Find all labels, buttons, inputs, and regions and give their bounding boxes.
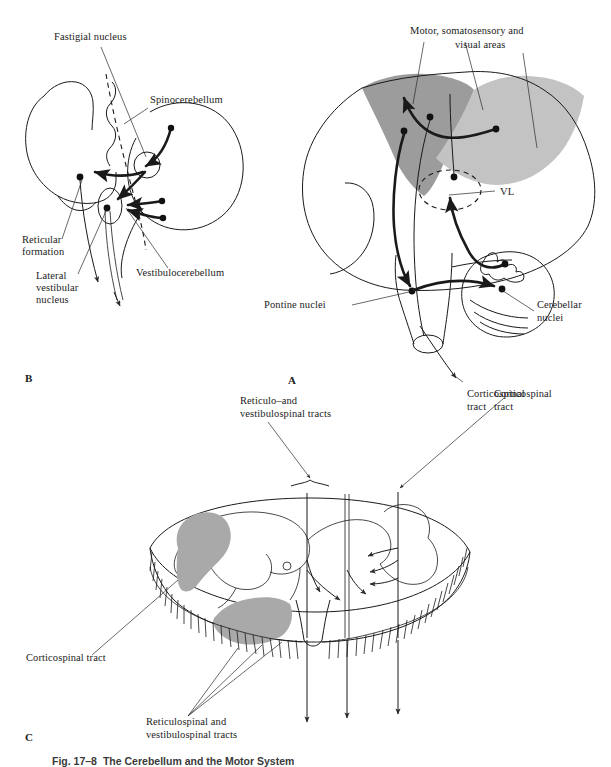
- reticulospinal-leader-3: [188, 642, 282, 716]
- figure-caption-text: The Cerebellum and the Motor System: [103, 755, 294, 767]
- label-spinocerebellum: Spinocerebellum: [150, 94, 223, 105]
- vestibulocerebellum-afferent-arrow-2: [128, 210, 163, 218]
- label-reticulospinal-vestibulospinal-line1: Reticulospinal and: [146, 716, 227, 727]
- cortex-origin-dot-2: [427, 114, 434, 121]
- reticulospinal-leader-2: [188, 645, 262, 716]
- panel-b-group: Fastigial nucleus Spinocerebellum Reticu…: [22, 31, 243, 384]
- reticular-formation-dot: [77, 174, 84, 181]
- reticulospinal-vestibulospinal-tract-shade: [213, 597, 292, 644]
- lateral-vestibular-nucleus-ellipse: [98, 188, 122, 224]
- cerebellum-folia-3: [480, 322, 524, 334]
- label-panel-a-corticospinal-line2: tract: [467, 401, 486, 412]
- tract-group-bracket: [291, 480, 329, 486]
- corticospinal-tract-shade: [177, 512, 231, 591]
- branch-arrow-1: [307, 560, 320, 592]
- label-fastigial-nucleus: Fastigial nucleus: [54, 31, 127, 42]
- cerebellar-nuclei-dot-2: [499, 286, 506, 293]
- label-cerebellar-nuclei-line1: Cerebellar: [537, 299, 582, 310]
- vestibulospinal-tract-line-right: [110, 211, 123, 300]
- temporal-lobe-outline: [330, 183, 374, 274]
- vl-leader: [449, 191, 495, 195]
- label-lateral-vestibular-line1: Lateral: [36, 270, 66, 281]
- spinocerebellum-leader: [124, 108, 148, 124]
- reticular-formation-leader: [62, 180, 82, 239]
- label-panel-c-corticospinal-top-line2: tract: [494, 401, 513, 412]
- label-reticular-formation-line1: Reticular: [22, 234, 62, 245]
- figure-caption-number: Fig. 17–8: [52, 755, 97, 767]
- vestibulospinal-tract-arrowhead: [114, 292, 120, 306]
- gray-matter-right-horn: [380, 538, 438, 584]
- reticulo-vestibulospinal-leader: [268, 422, 310, 478]
- label-reticulo-vestibulospinal-line1: Reticulo–and: [240, 395, 298, 406]
- label-cerebellar-nuclei-line2: nuclei: [537, 312, 563, 323]
- brainstem-outline-left: [395, 255, 414, 344]
- cerebellothalamic-pathway: [450, 198, 505, 268]
- fastigial-nucleus-leader: [101, 47, 146, 157]
- panel-c-group: Reticulo–and vestibulospinal tracts Cort…: [25, 388, 552, 743]
- vestibulocerebellum-origin-dot: [159, 198, 165, 204]
- panel-a-group: VL: [264, 25, 595, 412]
- reticulospinal-leader-1: [188, 648, 238, 716]
- spinocerebellum-afferent-arrow: [146, 128, 171, 166]
- panel-b-vermis-outline: [106, 82, 115, 166]
- gray-matter-right-upper: [308, 520, 391, 564]
- branch-arrow-6: [368, 548, 398, 556]
- panel-a-corticospinal-leader: [452, 374, 463, 382]
- lateral-vestibular-nucleus-leader: [78, 211, 106, 274]
- label-vestibulocerebellum: Vestibulocerebellum: [136, 267, 224, 278]
- label-lateral-vestibular-line3: nucleus: [36, 294, 69, 305]
- reticulospinal-tract-line: [80, 180, 98, 282]
- intracord-branch-group: [307, 548, 398, 600]
- vestibulocerebellum-origin-dot-2: [160, 215, 166, 221]
- vl-origin-dot: [451, 174, 458, 181]
- panel-c-corticospinal-top-leader: [400, 398, 504, 488]
- label-vl: VL: [500, 186, 514, 197]
- panel-letter-a: A: [288, 374, 296, 386]
- lateral-vestibular-nucleus-dot: [104, 205, 111, 212]
- median-fissure-notch: [296, 600, 330, 646]
- central-canal: [283, 562, 291, 570]
- label-panel-c-corticospinal-top-line1: Corticospinal: [494, 388, 552, 399]
- label-reticulo-vestibulospinal-line2: vestibulospinal tracts: [240, 408, 331, 419]
- panel-letter-c: C: [25, 731, 33, 743]
- cortex-origin-dot-3: [493, 126, 500, 133]
- label-panel-c-corticospinal-left: Corticospinal tract: [26, 652, 106, 663]
- branch-arrow-3: [347, 570, 366, 594]
- corticospinal-descending-arrow: [420, 326, 456, 378]
- label-lateral-vestibular-line2: vestibular: [36, 282, 79, 293]
- panel-b-hemisphere-upper: [44, 82, 93, 130]
- label-pontine-nuclei: Pontine nuclei: [264, 299, 326, 310]
- panel-b-hemisphere-outline: [26, 96, 116, 203]
- panel-letter-b: B: [25, 372, 33, 384]
- spinocerebellum-origin-dot: [168, 125, 174, 131]
- brainstem-outline-right: [443, 253, 452, 344]
- vestibulocerebellum-afferent-arrow: [128, 201, 162, 205]
- panel-c-corticospinal-left-leader: [92, 580, 178, 655]
- figure-caption: Fig. 17–8The Cerebellum and the Motor Sy…: [52, 755, 294, 767]
- label-cortical-areas-line2: visual areas: [455, 39, 505, 50]
- label-reticular-formation-line2: formation: [22, 246, 65, 257]
- cord-side-wall-right: [318, 552, 470, 642]
- cerebellar-nuclei-leader: [500, 289, 534, 311]
- fastigial-to-reticular-arrow: [95, 172, 143, 176]
- label-reticulospinal-vestibulospinal-line2: vestibulospinal tracts: [146, 729, 237, 740]
- cerebellar-nuclei-dot-1: [502, 261, 509, 268]
- label-cortical-areas-line1: Motor, somatosensory and: [410, 25, 524, 36]
